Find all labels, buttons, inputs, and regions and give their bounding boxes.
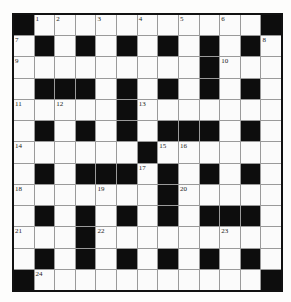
crossword-cell[interactable]: 18 (14, 185, 34, 205)
crossword-cell[interactable] (96, 36, 116, 56)
crossword-cell[interactable]: 6 (220, 15, 240, 35)
crossword-cell[interactable] (35, 100, 55, 120)
crossword-cell[interactable] (241, 270, 261, 290)
crossword-cell[interactable] (220, 36, 240, 56)
crossword-cell[interactable] (261, 227, 281, 247)
crossword-cell[interactable] (35, 185, 55, 205)
crossword-cell[interactable] (261, 249, 281, 269)
crossword-cell[interactable] (55, 36, 75, 56)
crossword-cell[interactable] (138, 36, 158, 56)
crossword-cell[interactable]: 7 (14, 36, 34, 56)
crossword-cell[interactable] (220, 100, 240, 120)
crossword-cell[interactable] (261, 121, 281, 141)
crossword-cell[interactable]: 19 (96, 185, 116, 205)
crossword-cell[interactable] (179, 270, 199, 290)
crossword-cell[interactable] (241, 142, 261, 162)
crossword-cell[interactable]: 1 (35, 15, 55, 35)
crossword-cell[interactable] (220, 79, 240, 99)
crossword-cell[interactable] (35, 227, 55, 247)
crossword-cell[interactable]: 10 (220, 57, 240, 77)
crossword-cell[interactable] (241, 100, 261, 120)
crossword-cell[interactable] (96, 142, 116, 162)
crossword-cell[interactable] (200, 270, 220, 290)
crossword-cell[interactable] (179, 57, 199, 77)
crossword-cell[interactable] (261, 164, 281, 184)
crossword-cell[interactable] (241, 185, 261, 205)
crossword-cell[interactable] (55, 206, 75, 226)
crossword-cell[interactable]: 13 (138, 100, 158, 120)
crossword-cell[interactable] (179, 100, 199, 120)
crossword-cell[interactable] (220, 121, 240, 141)
crossword-cell[interactable] (200, 100, 220, 120)
crossword-cell[interactable] (117, 270, 137, 290)
crossword-cell[interactable]: 22 (96, 227, 116, 247)
crossword-cell[interactable] (76, 185, 96, 205)
crossword-cell[interactable]: 11 (14, 100, 34, 120)
crossword-cell[interactable]: 16 (179, 142, 199, 162)
crossword-cell[interactable] (96, 249, 116, 269)
crossword-cell[interactable] (76, 142, 96, 162)
crossword-cell[interactable] (55, 227, 75, 247)
crossword-cell[interactable] (158, 227, 178, 247)
crossword-cell[interactable] (261, 206, 281, 226)
crossword-cell[interactable] (261, 142, 281, 162)
crossword-cell[interactable] (117, 142, 137, 162)
crossword-cell[interactable] (117, 15, 137, 35)
crossword-cell[interactable] (261, 100, 281, 120)
crossword-cell[interactable] (138, 206, 158, 226)
crossword-cell[interactable] (14, 249, 34, 269)
crossword-cell[interactable] (179, 206, 199, 226)
crossword-cell[interactable] (241, 15, 261, 35)
crossword-cell[interactable] (76, 100, 96, 120)
crossword-cell[interactable] (138, 57, 158, 77)
crossword-cell[interactable] (117, 185, 137, 205)
crossword-cell[interactable] (220, 142, 240, 162)
crossword-cell[interactable] (241, 227, 261, 247)
crossword-cell[interactable] (76, 57, 96, 77)
crossword-cell[interactable] (138, 185, 158, 205)
crossword-cell[interactable] (138, 270, 158, 290)
crossword-cell[interactable] (117, 57, 137, 77)
crossword-cell[interactable]: 4 (138, 15, 158, 35)
crossword-cell[interactable] (261, 79, 281, 99)
crossword-cell[interactable] (96, 57, 116, 77)
crossword-cell[interactable]: 14 (14, 142, 34, 162)
crossword-cell[interactable] (55, 57, 75, 77)
crossword-cell[interactable] (261, 185, 281, 205)
crossword-cell[interactable]: 23 (220, 227, 240, 247)
crossword-cell[interactable] (55, 121, 75, 141)
crossword-cell[interactable] (179, 227, 199, 247)
crossword-cell[interactable] (76, 270, 96, 290)
crossword-cell[interactable] (241, 57, 261, 77)
crossword-cell[interactable]: 21 (14, 227, 34, 247)
crossword-cell[interactable] (179, 249, 199, 269)
crossword-cell[interactable] (220, 249, 240, 269)
crossword-cell[interactable] (55, 185, 75, 205)
crossword-cell[interactable]: 12 (55, 100, 75, 120)
crossword-cell[interactable]: 5 (179, 15, 199, 35)
crossword-cell[interactable] (55, 142, 75, 162)
crossword-cell[interactable] (14, 164, 34, 184)
crossword-cell[interactable]: 9 (14, 57, 34, 77)
crossword-cell[interactable] (76, 15, 96, 35)
crossword-cell[interactable] (220, 270, 240, 290)
crossword-cell[interactable] (96, 100, 116, 120)
crossword-cell[interactable] (96, 121, 116, 141)
crossword-cell[interactable] (96, 270, 116, 290)
crossword-cell[interactable] (35, 57, 55, 77)
crossword-cell[interactable]: 3 (96, 15, 116, 35)
crossword-cell[interactable] (200, 227, 220, 247)
crossword-cell[interactable] (220, 185, 240, 205)
crossword-cell[interactable] (179, 36, 199, 56)
crossword-cell[interactable] (138, 227, 158, 247)
crossword-cell[interactable]: 2 (55, 15, 75, 35)
crossword-cell[interactable] (158, 270, 178, 290)
crossword-cell[interactable] (179, 79, 199, 99)
crossword-cell[interactable] (55, 164, 75, 184)
crossword-cell[interactable] (200, 185, 220, 205)
crossword-cell[interactable] (220, 164, 240, 184)
crossword-cell[interactable] (14, 121, 34, 141)
crossword-cell[interactable]: 8 (261, 36, 281, 56)
crossword-cell[interactable] (96, 79, 116, 99)
crossword-cell[interactable] (14, 79, 34, 99)
